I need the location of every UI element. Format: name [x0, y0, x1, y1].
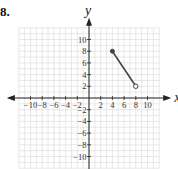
y-tick-label: 8	[82, 46, 86, 56]
x-tick-label: 4	[110, 100, 115, 110]
x-tick-label: 8	[134, 100, 138, 110]
y-tick-label: −4	[77, 116, 87, 126]
x-axis-left-arrow-icon	[7, 95, 15, 101]
open-endpoint-icon	[134, 84, 138, 88]
coordinate-plane: xy −10−8−6−4−2246810108642−2−4−6−8−10	[0, 0, 178, 169]
y-axis-up-arrow-icon	[86, 18, 92, 26]
y-tick-label: 2	[82, 81, 86, 91]
x-tick-label: 6	[122, 100, 126, 110]
y-tick-label: −8	[77, 140, 86, 150]
y-tick-label: 6	[82, 58, 86, 68]
closed-endpoint-icon	[110, 49, 114, 53]
x-axis-right-arrow-icon	[163, 95, 171, 101]
y-axis-label: y	[83, 3, 92, 18]
y-tick-label: −10	[73, 152, 86, 162]
y-tick-label: 10	[78, 35, 87, 45]
x-tick-label: 10	[143, 100, 152, 110]
x-tick-label: −8	[38, 100, 47, 110]
y-tick-label: −6	[77, 128, 86, 138]
x-axis-label: x	[173, 90, 178, 105]
y-tick-label: −2	[77, 105, 86, 115]
x-tick-label: −10	[24, 100, 37, 110]
x-tick-label: −6	[49, 100, 58, 110]
x-tick-label: −4	[61, 100, 71, 110]
x-tick-label: 2	[99, 100, 103, 110]
